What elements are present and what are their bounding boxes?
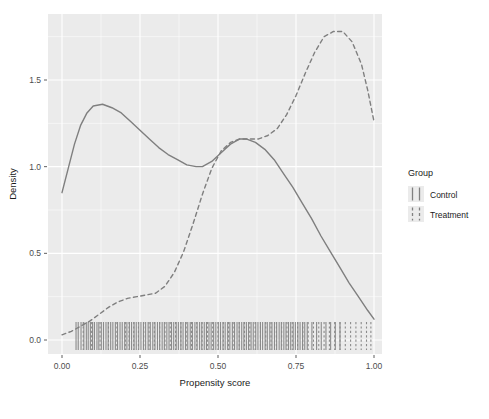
legend-key-background: [408, 186, 424, 202]
legend: GroupControlTreatment: [408, 168, 469, 222]
legend-label: Treatment: [430, 210, 469, 220]
x-tick-label: 0.00: [54, 361, 71, 371]
x-tick-label: 1.00: [366, 361, 383, 371]
y-tick-label: 1.5: [29, 75, 41, 85]
plot-panel: [48, 14, 382, 354]
x-tick-label: 0.50: [210, 361, 227, 371]
y-tick-label: 0.0: [29, 335, 41, 345]
legend-item-control[interactable]: Control: [408, 186, 458, 202]
legend-title: Group: [408, 168, 433, 178]
legend-label: Control: [430, 190, 458, 200]
chart-svg: 0.000.250.500.751.000.00.51.01.5Propensi…: [0, 0, 489, 419]
x-tick-label: 0.75: [288, 361, 305, 371]
x-tick-label: 0.25: [132, 361, 149, 371]
x-axis-title: Propensity score: [180, 377, 251, 388]
y-tick-label: 1.0: [29, 162, 41, 172]
y-tick-label: 0.5: [29, 248, 41, 258]
legend-item-treatment[interactable]: Treatment: [408, 206, 469, 222]
y-axis-title: Density: [7, 168, 18, 200]
density-plot: 0.000.250.500.751.000.00.51.01.5Propensi…: [0, 0, 489, 419]
legend-key-background: [408, 206, 424, 222]
